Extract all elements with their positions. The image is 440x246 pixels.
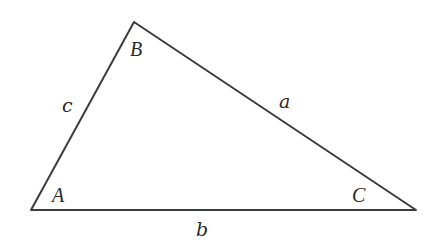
vertex-label-b: B bbox=[130, 38, 142, 60]
vertex-label-a: A bbox=[50, 184, 65, 206]
side-label-a: a bbox=[279, 90, 290, 112]
triangle-outline bbox=[31, 22, 416, 210]
vertex-label-c: C bbox=[352, 184, 366, 206]
side-label-b: b bbox=[196, 218, 208, 240]
side-label-c: c bbox=[62, 94, 73, 116]
triangle-diagram: A B C a b c bbox=[0, 0, 440, 246]
